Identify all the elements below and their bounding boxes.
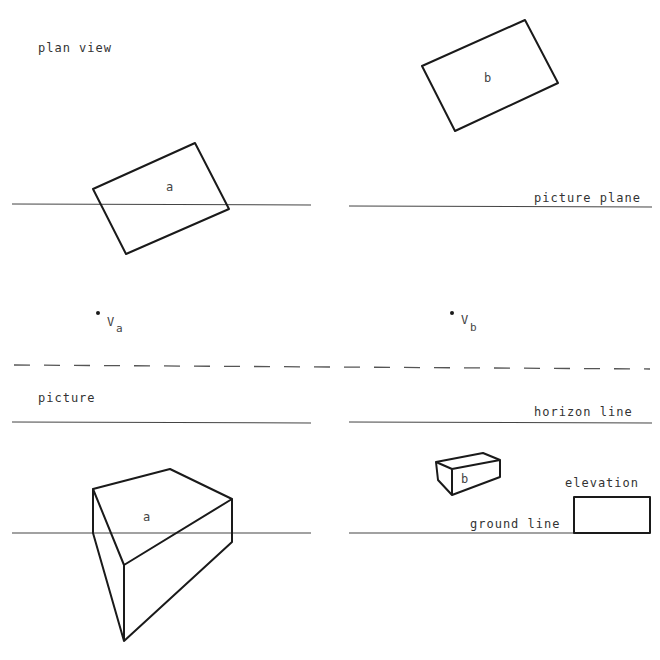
plan-rect-b-label: b <box>484 71 491 85</box>
vanishing-point-b-label: V <box>461 313 468 327</box>
plan-rect-a-label: a <box>166 180 173 194</box>
perspective-diagram: plan view a b picture plane V a V b pict… <box>0 0 660 660</box>
picture-plane-line-right <box>349 206 652 207</box>
diagram-svg: plan view a b picture plane V a V b pict… <box>0 0 660 660</box>
ground-line-label: ground line <box>470 517 560 531</box>
plan-rect-a <box>93 143 229 254</box>
horizon-line-right <box>349 422 652 423</box>
picture-label: picture <box>38 391 96 405</box>
block-a-label: a <box>143 510 150 524</box>
block-a-top-face <box>93 469 232 565</box>
vanishing-point-b-subscript: b <box>470 321 477 334</box>
section-divider-dashed <box>14 365 650 369</box>
elevation-label: elevation <box>565 476 639 490</box>
horizon-line-left <box>12 422 311 423</box>
picture-plane-label: picture plane <box>534 191 641 205</box>
vanishing-point-a-subscript: a <box>116 322 123 335</box>
vanishing-point-a-label: V <box>107 315 114 329</box>
vanishing-point-b-dot <box>450 311 454 315</box>
plan-view-label: plan view <box>38 41 112 55</box>
vanishing-point-a-dot <box>96 311 100 315</box>
box-b-label: b <box>461 472 468 486</box>
elevation-rect <box>574 497 650 533</box>
picture-plane-line-left <box>12 204 311 205</box>
horizon-line-label: horizon line <box>534 405 633 419</box>
